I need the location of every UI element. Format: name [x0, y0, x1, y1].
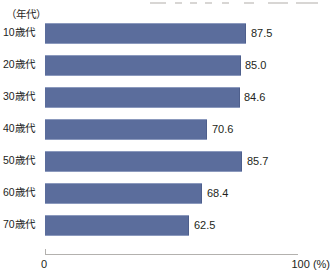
table-row: 20歳代 85.0 [0, 54, 332, 86]
category-label: 10歳代 [0, 22, 42, 43]
scan-artifact-decor [0, 0, 332, 7]
bar-60s [45, 183, 202, 204]
bar-20s [45, 55, 241, 76]
table-row: 10歳代 87.5 [0, 22, 332, 54]
bar-chart: （年代） 10歳代 87.5 20歳代 85.0 30歳代 84.6 40歳代 … [0, 0, 332, 276]
category-label: 20歳代 [0, 54, 42, 75]
category-label: 30歳代 [0, 86, 42, 107]
value-label: 68.4 [207, 183, 228, 204]
bar-40s [45, 119, 207, 140]
x-axis-tick-label-100: 100 (%) [291, 258, 330, 270]
value-label: 84.6 [244, 87, 265, 108]
x-axis-tick-label-0: 0 [41, 258, 47, 270]
table-row: 70歳代 62.5 [0, 214, 332, 246]
table-row: 60歳代 68.4 [0, 182, 332, 214]
value-label: 87.5 [251, 23, 272, 44]
category-label: 70歳代 [0, 214, 42, 235]
x-axis-line [45, 254, 298, 255]
table-row: 40歳代 70.6 [0, 118, 332, 150]
table-row: 30歳代 84.6 [0, 86, 332, 118]
table-row: 50歳代 85.7 [0, 150, 332, 182]
bar-70s [45, 215, 189, 236]
category-axis-caption: （年代） [6, 8, 46, 20]
category-label: 40歳代 [0, 118, 42, 139]
category-label: 60歳代 [0, 182, 42, 203]
bar-30s [45, 87, 240, 108]
bar-50s [45, 151, 242, 172]
value-label: 70.6 [212, 119, 233, 140]
value-label: 85.7 [247, 151, 268, 172]
plot-area: 10歳代 87.5 20歳代 85.0 30歳代 84.6 40歳代 70.6 … [0, 22, 332, 254]
value-label: 85.0 [245, 55, 266, 76]
value-label: 62.5 [194, 215, 215, 236]
category-label: 50歳代 [0, 150, 42, 171]
bar-10s [45, 23, 246, 44]
